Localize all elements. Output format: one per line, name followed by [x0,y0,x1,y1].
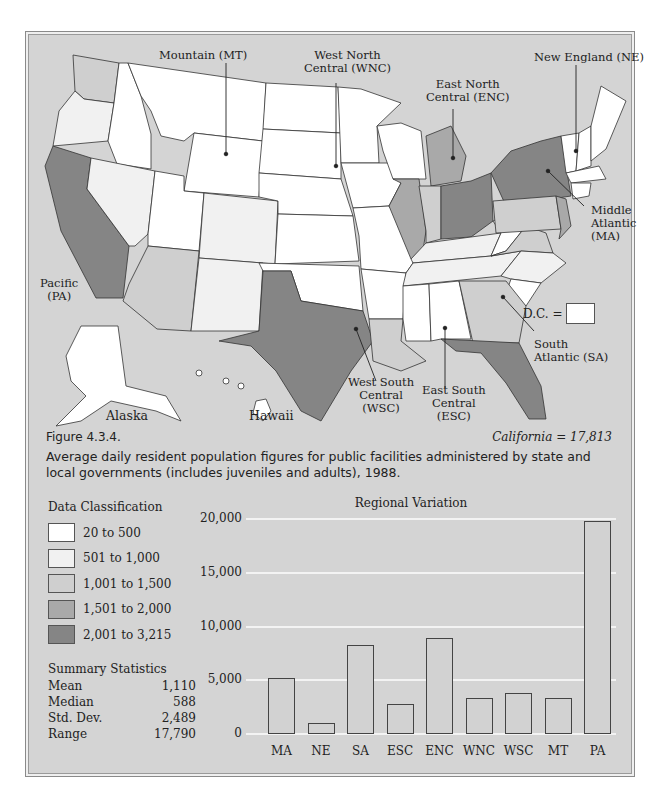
legend-label: 20 to 500 [83,526,141,540]
state-michigan [426,126,466,186]
label-ma: Middle Atlantic (MA) [591,204,636,243]
label-esc: East South Central (ESC) [422,384,486,423]
figure-frame: Mountain (MT) West North Central (WNC) E… [25,31,635,777]
stat-label: Range [48,726,87,742]
state-south-dakota [259,129,341,179]
label-sa-line2: Atlantic (SA) [534,351,608,364]
legend-label: 501 to 1,000 [83,551,160,565]
gridline [246,572,616,574]
y-tick-label: 10,000 [182,619,242,633]
label-ma-line3: (MA) [591,230,636,243]
stat-row: Median 588 [48,694,196,710]
y-tick-label: 5,000 [182,672,242,686]
legend-swatch [48,549,75,568]
legend-swatch [48,574,75,593]
label-wsc-line3: (WSC) [348,402,414,415]
stat-label: Std. Dev. [48,710,102,726]
y-tick-label: 20,000 [182,511,242,525]
bar-ne [308,723,335,734]
x-tick-label: WNC [459,744,499,758]
bar-wsc [505,693,532,734]
label-wnc-line2: Central (WNC) [304,62,391,75]
label-wsc: West South Central (WSC) [348,376,414,415]
label-mountain: Mountain (MT) [159,49,247,62]
label-sa: South Atlantic (SA) [534,338,608,364]
gridline [246,518,616,520]
state-kansas [275,214,359,264]
label-ne: New England (NE) [534,51,644,64]
stat-row: Std. Dev. 2,489 [48,710,196,726]
california-note: California = 17,813 [492,430,612,444]
figure-caption: Average daily resident population figure… [46,449,621,481]
stat-value: 588 [173,694,196,710]
stat-row: Mean 1,110 [48,678,196,694]
x-tick-label: ENC [420,744,460,758]
label-pa-line2: (PA) [40,290,78,303]
x-tick-label: MT [538,744,578,758]
x-tick-label: MA [262,744,302,758]
legend-label: 1,001 to 1,500 [83,577,171,591]
y-tick-label: 0 [182,726,242,740]
x-tick-label: WSC [499,744,539,758]
state-arizona [123,246,199,331]
state-arkansas [361,269,406,319]
stat-value: 2,489 [162,710,196,726]
stat-label: Median [48,694,94,710]
label-wnc: West North Central (WNC) [304,49,391,75]
dc-swatch [566,303,595,324]
bar-esc [387,704,414,734]
state-pennsylvania [493,196,561,233]
legend-swatch [48,523,75,542]
x-tick-label: SA [341,744,381,758]
stat-label: Mean [48,678,82,694]
state-colorado [199,193,278,264]
legend-swatch [48,600,75,619]
bar-ma [268,678,295,734]
figure-number: Figure 4.3.4. [46,430,121,444]
state-north-dakota [263,83,341,133]
label-esc-line3: (ESC) [422,410,486,423]
chart-title: Regional Variation [196,496,626,510]
state-new-mexico [191,258,263,331]
state-wyoming [184,133,263,197]
dc-indicator: D.C. = [523,303,595,324]
stat-row: Range 17,790 [48,726,196,742]
legend-label: 1,501 to 2,000 [83,602,171,616]
bar-wnc [466,698,493,734]
gridline [246,626,616,628]
state-maine [591,86,626,161]
state-mississippi [403,284,431,341]
x-tick-label: NE [301,744,341,758]
label-hawaii: Hawaii [249,409,294,422]
x-tick-label: PA [578,744,618,758]
label-enc: East North Central (ENC) [426,78,510,104]
dc-label: D.C. = [523,307,562,321]
legend-label: 2,001 to 3,215 [83,628,171,642]
us-choropleth-map [26,32,636,432]
x-tick-label: ESC [380,744,420,758]
label-pacific: Pacific (PA) [40,277,78,303]
bar-pa [584,521,611,734]
regional-variation-chart: Regional Variation 05,00010,00015,00020,… [196,494,626,774]
label-enc-line2: Central (ENC) [426,91,510,104]
legend-swatch [48,625,75,644]
label-alaska: Alaska [106,409,148,422]
bar-sa [347,645,374,734]
bar-mt [545,698,572,734]
y-tick-label: 15,000 [182,565,242,579]
state-new-york [491,136,571,206]
bar-enc [426,638,453,734]
